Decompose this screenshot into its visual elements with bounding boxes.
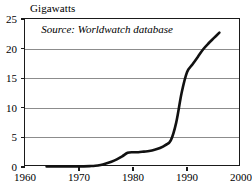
x-tick-label-1970: 1970 bbox=[54, 171, 104, 183]
y-tick-label-10: 10 bbox=[0, 103, 17, 114]
chart-figure: Gigawatts 0510152025 1960197019801990200… bbox=[0, 0, 252, 185]
x-tick-label-1990: 1990 bbox=[162, 171, 212, 183]
data-line-path bbox=[47, 33, 220, 167]
x-tick-label-1980: 1980 bbox=[108, 171, 158, 183]
x-tick-label-2000: 2000 bbox=[216, 171, 252, 183]
plot-area: 0510152025 19601970198019902000 Source: … bbox=[24, 18, 240, 166]
x-tick-mark-1990 bbox=[186, 167, 187, 171]
y-tick-label-15: 15 bbox=[0, 73, 17, 84]
data-series-wind-capacity bbox=[25, 19, 241, 167]
x-tick-label-1960: 1960 bbox=[0, 171, 50, 183]
y-tick-label-25: 25 bbox=[0, 14, 17, 25]
y-tick-label-20: 20 bbox=[0, 44, 17, 55]
y-tick-label-5: 5 bbox=[0, 132, 17, 143]
y-axis-title: Gigawatts bbox=[30, 2, 76, 15]
x-tick-mark-1980 bbox=[132, 167, 133, 171]
